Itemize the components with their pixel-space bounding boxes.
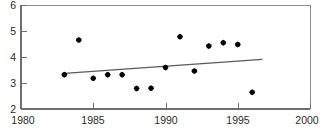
data-point — [249, 89, 255, 95]
x-tick-label: 1985 — [81, 114, 105, 126]
plot-area: 6 5 4 3 2 1980 1985 1990 1995 2000 — [0, 0, 324, 133]
y-tick-labels: 6 5 4 3 2 — [10, 0, 16, 115]
y-tick-label: 6 — [10, 0, 16, 11]
plot-frame — [21, 5, 310, 109]
data-point — [235, 42, 241, 48]
data-point-group — [61, 34, 255, 96]
data-point — [177, 34, 183, 40]
data-point — [119, 72, 125, 78]
data-point — [191, 68, 197, 74]
data-point — [148, 85, 154, 91]
x-tick-label: 1990 — [154, 114, 178, 126]
y-tick-label: 5 — [10, 25, 16, 37]
x-tick-labels: 1980 1985 1990 1995 2000 — [11, 114, 319, 126]
data-point — [76, 37, 82, 43]
x-tick-label: 1995 — [226, 114, 250, 126]
data-point — [206, 43, 212, 49]
x-tick-label: 2000 — [295, 114, 319, 126]
x-tick-label: 1980 — [11, 114, 35, 126]
x-tick-marks — [21, 103, 310, 109]
data-point — [134, 85, 140, 91]
y-tick-label: 4 — [10, 51, 16, 63]
data-point — [90, 75, 96, 81]
y-tick-marks — [21, 5, 27, 109]
y-tick-label: 3 — [10, 77, 16, 89]
scatter-chart: 6 5 4 3 2 1980 1985 1990 1995 2000 — [0, 0, 324, 133]
data-point — [163, 64, 169, 70]
data-point — [220, 40, 226, 46]
data-point — [105, 72, 111, 78]
